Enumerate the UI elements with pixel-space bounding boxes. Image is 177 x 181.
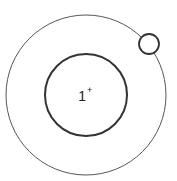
nucleus [45, 54, 127, 136]
nucleus-charge-label: 1 [78, 88, 86, 104]
electron [139, 34, 159, 54]
nucleus-charge-sign: + [87, 85, 92, 95]
atom-diagram: 1 + [0, 0, 177, 181]
